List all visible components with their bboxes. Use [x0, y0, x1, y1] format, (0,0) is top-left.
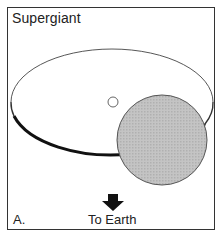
companion-star: [108, 97, 118, 107]
arrow-down-icon: [102, 194, 124, 211]
to-earth-label: To Earth: [88, 212, 136, 227]
orbit-near-side: [14, 116, 131, 155]
panel-label: A.: [13, 212, 25, 227]
orbit-far-side: [11, 49, 213, 102]
orbit-right-side: [205, 102, 213, 124]
orbit-left-side: [11, 102, 14, 116]
binary-star-diagram: [0, 0, 224, 234]
supergiant-star: [117, 95, 207, 185]
